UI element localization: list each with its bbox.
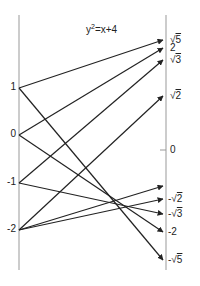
equation-title: y2=x+4 xyxy=(86,22,117,35)
left-axis-label: -2 xyxy=(7,224,16,234)
left-axis-label: 1 xyxy=(10,82,16,92)
right-axis-label: -√5 xyxy=(168,255,182,265)
mapping-arrow xyxy=(19,40,163,88)
mapping-arrow xyxy=(19,88,163,260)
right-axis-label: -√3 xyxy=(168,209,182,219)
right-axis-label: -√2 xyxy=(168,194,182,204)
right-axis-label: √2 xyxy=(170,91,181,101)
right-axis-label: 2 xyxy=(170,43,176,53)
right-axis-label: 0 xyxy=(170,145,176,155)
mapping-arrow xyxy=(19,186,163,230)
left-axis-label: -1 xyxy=(7,177,16,187)
right-axis-label: √3 xyxy=(170,55,181,65)
right-axis-label: -2 xyxy=(168,227,177,237)
mapping-arrow xyxy=(19,135,163,232)
mapping-arrow xyxy=(19,199,163,230)
left-axis-label: 0 xyxy=(10,129,16,139)
